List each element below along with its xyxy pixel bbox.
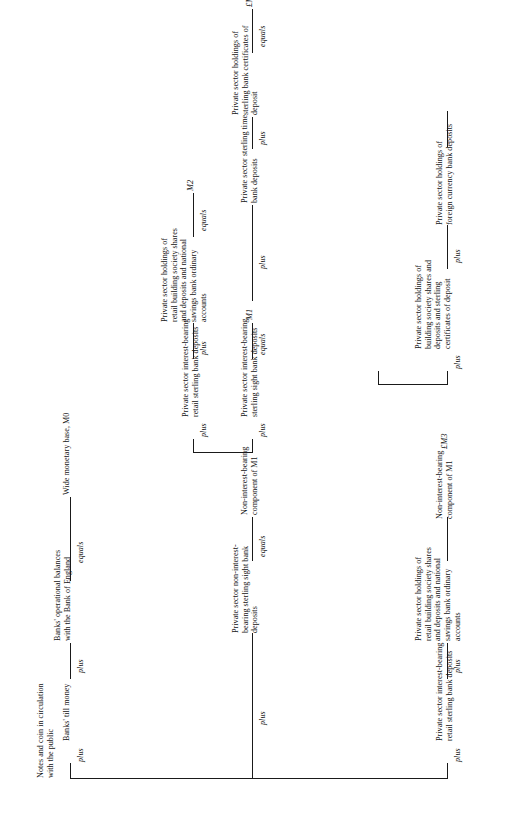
operator-row4-plus-1: plus [453, 748, 462, 762]
connector-row2b-seg-1 [252, 117, 253, 149]
connector-row2-seg-3 [252, 323, 253, 359]
operator-row5-plus-1: plus [453, 355, 462, 369]
node-non-interest-component-m1-row2: Non-interest-bearing component of M1 [240, 405, 259, 515]
rotated-diagram-canvas: Notes and coin in circulation with the p… [0, 0, 526, 825]
connector-sterling-m3-trunk [378, 384, 447, 385]
operator-row2-equals-1: equals [258, 536, 267, 557]
node-non-interest-component-m1-row4: Non-interest-bearing component of M1 [435, 409, 454, 519]
connector-row4-seg-2 [447, 517, 448, 561]
operator-row2-plus-2: plus [258, 423, 267, 437]
connector-row3-seg-1 [193, 323, 194, 359]
node-ps-retail-bs-shares-nsb: Private sector holdings of retail buildi… [160, 187, 209, 322]
operator-row5-plus-2: plus [453, 249, 462, 263]
connector-row2-seg-1 [252, 517, 253, 561]
operator-row3-plus-2: plus [199, 341, 208, 355]
connector-row2b-seg-2 [252, 9, 253, 53]
operator-row1-plus-1: plus [76, 748, 85, 762]
monetary-aggregates-flowchart: Notes and coin in circulation with the p… [0, 0, 526, 825]
operator-row2b-plus-2: plus [258, 131, 267, 145]
connector-row5-stub-upper [378, 371, 379, 385]
connector-row2-seg-0 [252, 633, 253, 779]
connector-row2-seg-2 [252, 439, 253, 453]
operator-row1-equals: equals [76, 542, 85, 563]
connector-row5-seg-1 [447, 225, 448, 269]
node-ps-sterling-cds: Private sector holdings of sterling bank… [231, 0, 260, 115]
operator-row2-equals-2: equals [258, 334, 267, 355]
operator-row3-equals: equals [199, 210, 208, 231]
node-ps-non-interest-sight-deposits: Private sector non-interest- bearing ste… [231, 513, 260, 633]
connector-row1-seg-1 [70, 643, 71, 679]
operator-row2b-equals: equals [258, 26, 267, 47]
operator-row2b-plus-1: plus [258, 255, 267, 269]
connector-row3-seg-2 [193, 193, 194, 237]
connector-non-interest-component-trunk [193, 452, 252, 453]
connector-row1-seg-2 [70, 497, 71, 581]
node-notes-and-coin-row1: Notes and coin in circulation with the p… [36, 666, 56, 778]
connector-row1-stub [70, 763, 71, 779]
connector-row3-stub [193, 439, 194, 453]
aggregate-label-m1-row2: M1 [245, 309, 254, 320]
operator-row2-plus-1: plus [258, 711, 267, 725]
aggregate-label-m2: M2 [186, 180, 195, 191]
connector-notes-and-coin-trunk [70, 778, 252, 779]
connector-row5-seg-2 [447, 111, 448, 147]
connector-row2b-seg-0 [252, 205, 253, 301]
node-wide-monetary-base: Wide monetary base, M0 [62, 375, 72, 495]
operator-row1-plus-2: plus [76, 659, 85, 673]
node-ps-foreign-currency-deposits: Private sector holdings of foreign curre… [435, 75, 454, 225]
aggregate-label-sterling-m3-right: £M3 [245, 0, 254, 7]
connector-row2-to-row4-trunk [252, 778, 447, 779]
node-ps-retail-bs-deposits-nsb-row4: Private sector holdings of retail buildi… [414, 511, 463, 641]
operator-row3-plus-1: plus [199, 423, 208, 437]
connector-row4-seg-1 [447, 643, 448, 679]
connector-row5-stub-lower [447, 371, 448, 385]
operator-row4-plus-2: plus [453, 659, 462, 673]
connector-row4-stub [447, 763, 448, 779]
